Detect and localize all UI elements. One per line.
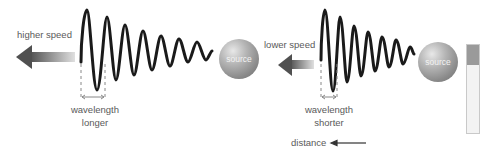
wavelength-qualifier-right: shorter (297, 117, 361, 128)
side-panel (466, 44, 480, 134)
source-sphere-left: source (219, 39, 259, 79)
speed-label-right: lower speed (264, 39, 315, 50)
arrow-left-icon (16, 45, 75, 69)
wave-right (321, 10, 414, 91)
speed-label-left: higher speed (17, 29, 72, 40)
source-label-right: source (418, 57, 458, 67)
wave-left (81, 10, 212, 90)
arrow-left-icon-right (278, 54, 314, 76)
wavelength-label-left: wavelength (63, 104, 127, 115)
source-label-left: source (219, 54, 259, 64)
wavelength-qualifier-left: longer (63, 117, 127, 128)
source-sphere-right: source (418, 42, 458, 82)
side-panel-header (467, 45, 479, 65)
distance-label: distance (291, 137, 326, 148)
distance-arrow-icon (331, 141, 366, 146)
wavelength-label-right: wavelength (297, 104, 361, 115)
